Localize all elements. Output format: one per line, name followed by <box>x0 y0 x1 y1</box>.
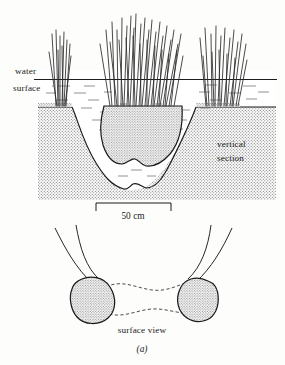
right-bank-curve-inner <box>188 225 211 279</box>
vertical-section-panel: water surface vertical section <box>13 14 278 203</box>
vertical-section-label-line2: section <box>217 153 244 163</box>
left-bank-curve-inner <box>76 225 100 280</box>
water-surface-label-line1: water <box>15 66 36 76</box>
water-surface-label-line2: surface <box>13 83 41 93</box>
surface-view-panel: surface view (a) <box>55 225 232 355</box>
right-bank-curve-outer <box>196 228 232 282</box>
panel-label: (a) <box>137 344 148 355</box>
figure-illustration: water surface vertical section 50 cm <box>0 0 285 365</box>
surface-view-label: surface view <box>118 325 167 335</box>
scale-bar-rule <box>96 203 171 211</box>
figure-container: water surface vertical section 50 cm <box>0 0 285 365</box>
left-clump-plan <box>70 277 114 323</box>
right-clump-plan <box>178 278 219 321</box>
vertical-section-label-line1: vertical <box>217 139 246 149</box>
scale-bar: 50 cm <box>96 203 171 221</box>
left-bank-curve-outer <box>55 228 92 283</box>
scale-bar-label: 50 cm <box>121 211 145 221</box>
left-clump-base <box>38 103 72 107</box>
